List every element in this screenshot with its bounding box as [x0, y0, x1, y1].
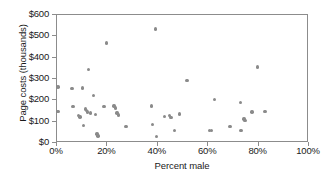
data-point: [82, 124, 85, 127]
x-tick-mark: [207, 142, 208, 146]
data-point: [228, 125, 231, 128]
data-point: [78, 115, 81, 118]
data-point: [96, 134, 99, 137]
y-tick-label: $100: [3, 116, 49, 126]
data-point: [94, 113, 97, 116]
x-tick-mark: [56, 142, 57, 146]
data-point: [150, 104, 153, 107]
y-tick-label: $300: [3, 73, 49, 83]
plot-area: [56, 14, 308, 142]
data-point: [173, 129, 176, 132]
data-point: [239, 101, 242, 104]
y-tick-label: $500: [3, 30, 49, 40]
data-point: [239, 129, 242, 132]
data-point: [256, 65, 259, 68]
scatter-chart: Page costs (thousands) Percent male $0$1…: [0, 0, 323, 182]
data-point: [92, 94, 95, 97]
y-tick-label: $600: [3, 9, 49, 19]
data-point: [243, 119, 246, 122]
x-axis-title: Percent male: [56, 160, 308, 171]
data-point: [87, 68, 90, 71]
x-tick-mark: [157, 142, 158, 146]
x-tick-label: 100%: [283, 146, 323, 156]
data-point: [71, 105, 74, 108]
data-point: [154, 27, 157, 30]
data-point: [155, 135, 158, 138]
data-point: [169, 116, 172, 119]
data-point: [89, 111, 92, 114]
data-point: [70, 87, 73, 90]
data-point: [151, 123, 154, 126]
data-point: [263, 110, 266, 113]
data-point: [124, 125, 127, 128]
data-point: [163, 115, 166, 118]
x-tick-mark: [106, 142, 107, 146]
data-point: [56, 85, 59, 88]
data-point: [105, 41, 108, 44]
data-point: [81, 86, 84, 89]
x-tick-mark: [308, 142, 309, 146]
x-tick-label: 0%: [31, 146, 81, 156]
data-point: [213, 98, 216, 101]
y-tick-label: $400: [3, 52, 49, 62]
y-tick-label: $200: [3, 94, 49, 104]
x-tick-mark: [258, 142, 259, 146]
data-point: [185, 79, 188, 82]
x-tick-label: 60%: [182, 146, 232, 156]
data-point: [102, 105, 105, 108]
data-point: [114, 106, 117, 109]
x-tick-label: 80%: [233, 146, 283, 156]
data-point: [117, 113, 120, 116]
data-point: [210, 129, 213, 132]
x-tick-label: 20%: [81, 146, 131, 156]
x-tick-label: 40%: [132, 146, 182, 156]
data-point: [56, 110, 59, 113]
data-point: [250, 110, 253, 113]
data-point: [178, 112, 181, 115]
